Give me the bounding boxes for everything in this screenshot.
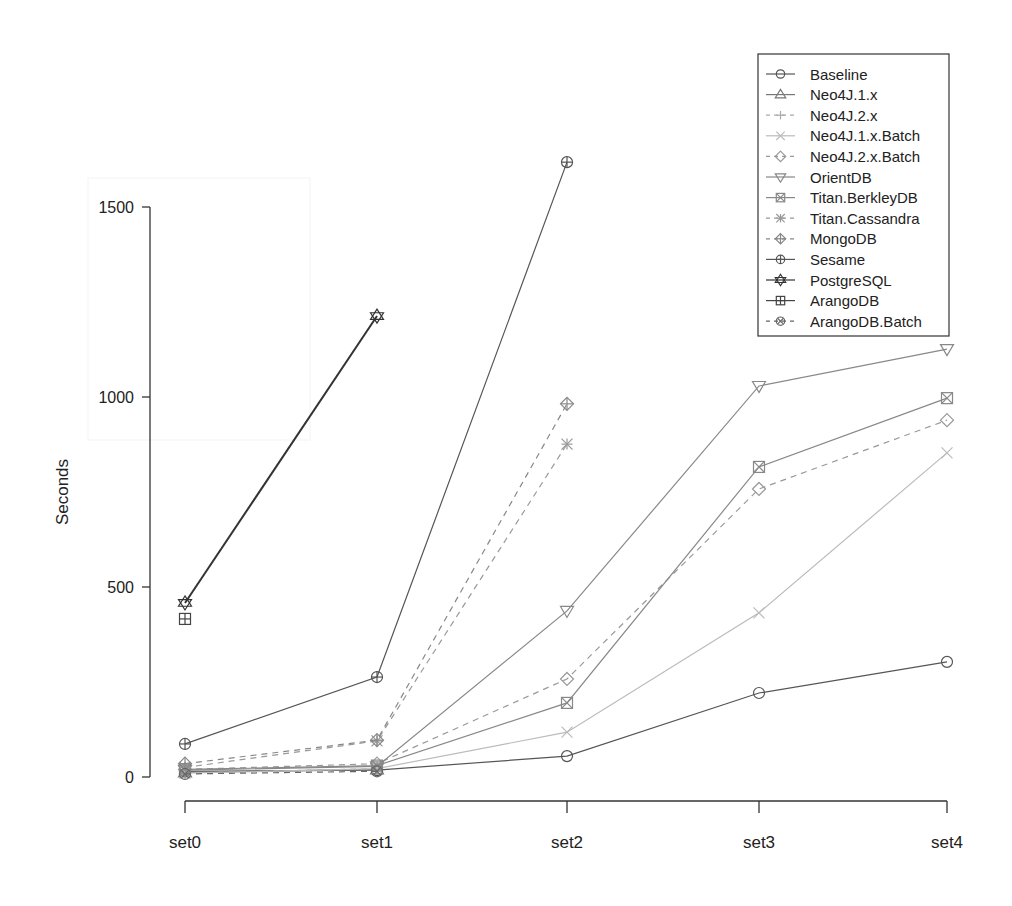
legend-label: MongoDB	[810, 230, 877, 247]
series-postgresql	[179, 309, 384, 610]
data-point-neo4j-1-x-batch-set3	[754, 607, 765, 618]
y-tick-label: 500	[107, 579, 134, 596]
chart-canvas: 050010001500set0set1set2set3set4 Baselin…	[0, 0, 1012, 906]
y-tick-label: 0	[125, 769, 134, 786]
series-line	[185, 316, 377, 603]
data-point-mongodb-set2	[561, 397, 574, 410]
data-point-sesame-set2	[562, 157, 573, 168]
legend-label: Sesame	[810, 251, 865, 268]
series-line	[185, 444, 567, 767]
series-baseline	[180, 656, 953, 776]
x-tick-label: set4	[931, 833, 963, 852]
y-tick-label: 1000	[98, 389, 134, 406]
x-tick-label: set0	[169, 833, 201, 852]
data-point-arangodb-set0	[180, 613, 191, 624]
y-tick-label: 1500	[98, 199, 134, 216]
data-point-titan-cassandra-set2	[562, 439, 573, 450]
legend-label: Neo4J.1.x	[810, 86, 878, 103]
legend-label: Titan.Cassandra	[810, 210, 920, 227]
data-point-orientdb-set2	[561, 606, 574, 617]
y-axis-label: Seconds	[53, 459, 72, 525]
legend: BaselineNeo4J.1.xNeo4J.2.xNeo4J.1.x.Batc…	[758, 54, 949, 336]
series-mongodb	[179, 397, 574, 770]
x-tick-label: set2	[551, 833, 583, 852]
data-point-neo4j-1-x-batch-set2	[562, 727, 573, 738]
legend-label: Neo4J.2.x.Batch	[810, 148, 920, 165]
legend-label: PostgreSQL	[810, 272, 892, 289]
series-titan-cassandra	[180, 439, 573, 773]
legend-marker-icon	[776, 214, 784, 222]
legend-label: ArangoDB.Batch	[810, 313, 922, 330]
data-point-titan-berkleydb-set2	[562, 697, 573, 708]
series-line	[185, 453, 947, 773]
line-chart: 050010001500set0set1set2set3set4 Baselin…	[0, 0, 1012, 906]
series-line	[185, 420, 947, 769]
series-line	[185, 349, 947, 770]
legend-label: Neo4J.1.x.Batch	[810, 127, 920, 144]
series-neo4j-1-x-batch	[180, 447, 953, 778]
series-line	[185, 162, 567, 744]
data-point-sesame-set1	[372, 672, 383, 683]
series-line	[185, 398, 947, 769]
legend-label: ArangoDB	[810, 292, 879, 309]
legend-marker-icon	[776, 255, 784, 263]
series-arangodb	[180, 613, 191, 624]
legend-label: Neo4J.2.x	[810, 107, 878, 124]
data-point-titan-berkleydb-set3	[754, 461, 765, 472]
series-neo4j-2-x-batch	[179, 414, 954, 776]
series-line	[185, 662, 947, 771]
data-point-neo4j-1-x-batch-set4	[942, 447, 953, 458]
x-tick-label: set3	[743, 833, 775, 852]
legend-label: Baseline	[810, 66, 868, 83]
series-sesame	[180, 157, 573, 750]
legend-label: Titan.BerkleyDB	[810, 189, 918, 206]
data-point-sesame-set0	[180, 738, 191, 749]
series-titan-berkleydb	[180, 393, 953, 775]
data-point-titan-berkleydb-set4	[942, 393, 953, 404]
legend-label: OrientDB	[810, 169, 872, 186]
x-tick-label: set1	[361, 833, 393, 852]
series-line	[185, 404, 567, 764]
